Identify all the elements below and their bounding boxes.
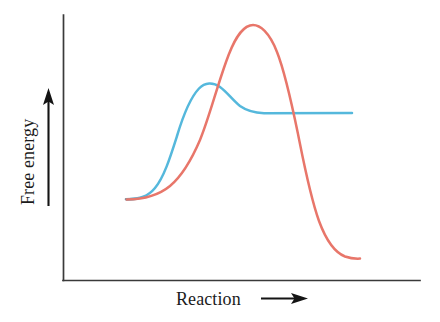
red-curve — [127, 25, 360, 259]
y-axis-label: Free energy — [18, 119, 38, 205]
y-axis-label-group: Free energy — [18, 88, 54, 206]
up-arrow-icon — [43, 88, 54, 206]
right-arrow-icon — [261, 293, 308, 304]
x-axis-label: Reaction — [176, 289, 241, 309]
plot-canvas: Free energy Reaction — [0, 0, 440, 322]
axes-group — [63, 15, 420, 281]
blue-curve — [127, 83, 352, 199]
x-axis-label-group: Reaction — [176, 289, 308, 309]
free-energy-reaction-figure: Free energy Reaction — [0, 0, 440, 322]
